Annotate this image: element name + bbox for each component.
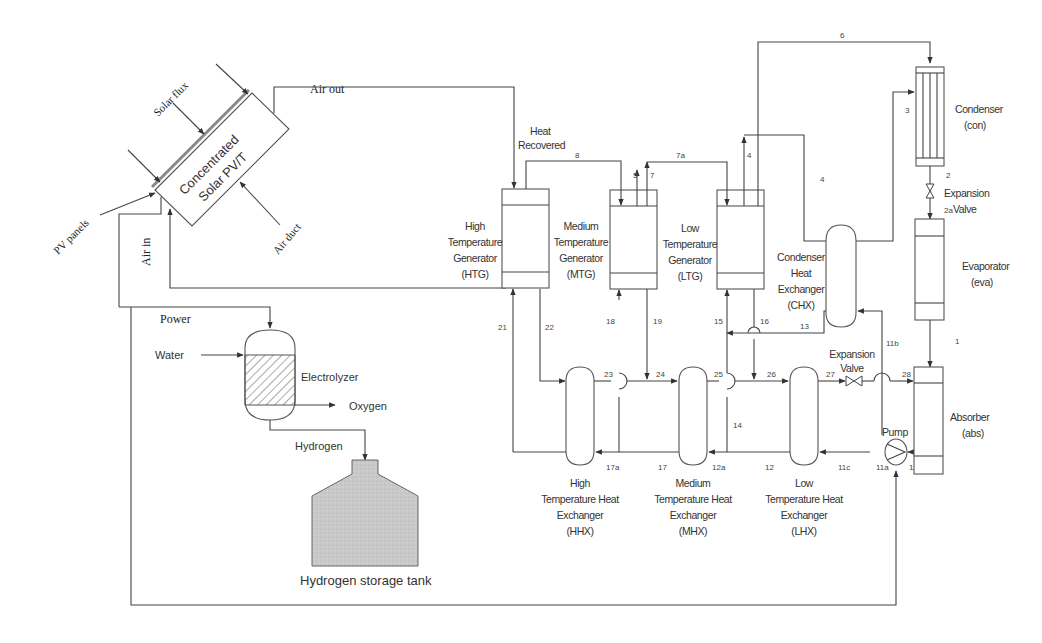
absorber-label-1: Absorber [950, 411, 990, 423]
ltg-label-2: Temperature [663, 238, 718, 250]
mhx [679, 367, 707, 465]
chx-label-4: (CHX) [787, 299, 814, 311]
power-label: Power [160, 312, 191, 326]
solar-flux-arrow [173, 103, 204, 134]
mtg-label-2: Temperature [554, 236, 609, 248]
state-16: 16 [760, 317, 769, 326]
heat-recovered-label-1: Heat [530, 125, 551, 137]
hhx-label-4: (HHX) [566, 525, 593, 537]
air-duct-label: Air duct [270, 221, 303, 257]
top-valve-label-1: Expansion [944, 187, 990, 199]
state-13: 13 [800, 322, 809, 331]
crossover-13 [748, 327, 760, 333]
state-7a: 7a [676, 151, 685, 160]
state-26: 26 [767, 370, 776, 379]
hhx [566, 367, 594, 465]
chx-label-2: Heat [791, 267, 812, 279]
crossover-23 [619, 373, 627, 389]
water-label: Water [155, 349, 184, 361]
mhx-label-1: Medium [676, 477, 712, 489]
state-7: 7 [650, 171, 655, 180]
air-in-label: Air in [139, 238, 153, 266]
hhx-label-3: Exchanger [557, 509, 605, 521]
pv-panels-label: PV panels [51, 216, 91, 256]
hhx-label-2: Temperature Heat [541, 493, 619, 505]
pv-panels-pointer [100, 193, 155, 215]
oxygen-label: Oxygen [349, 400, 387, 412]
state-21: 21 [498, 323, 507, 332]
state-23: 23 [604, 370, 613, 379]
lhx-label-2: Temperature Heat [765, 493, 843, 505]
evaporator [915, 219, 944, 320]
state-11b: 11b [886, 339, 899, 348]
mtg-label-1: Medium [564, 220, 600, 232]
lhx [790, 367, 818, 465]
evaporator-label-2: (eva) [971, 276, 993, 288]
pump [885, 439, 907, 465]
state-2a: 2a [944, 206, 953, 215]
tank-label: Hydrogen storage tank [300, 573, 432, 588]
state-4b: 4 [820, 175, 825, 184]
heat-recovered-label-2: Recovered [518, 139, 566, 151]
stream-7a [647, 162, 727, 205]
state-12: 12 [765, 463, 774, 472]
stream-3 [836, 92, 914, 241]
mhx-label-2: Temperature Heat [654, 493, 732, 505]
bottom-valve-label-2: Valve [840, 362, 864, 374]
air-duct-pointer [240, 182, 280, 225]
state-11a: 11a [876, 463, 889, 472]
state-8: 8 [575, 151, 580, 160]
chx-label-1: Condenser [777, 251, 826, 263]
state-3: 3 [905, 106, 910, 115]
stream-13 [727, 311, 826, 333]
absorber-label-2: (abs) [962, 427, 984, 439]
electrolyzer [245, 330, 295, 420]
state-17: 17 [658, 463, 667, 472]
state-6: 6 [840, 31, 845, 40]
condenser-label-2: (con) [964, 119, 986, 131]
htg-label-1: High [465, 220, 486, 232]
power-to-electrolyzer [119, 307, 270, 328]
hydrogen-label: Hydrogen [295, 440, 343, 452]
state-12a: 12a [712, 463, 726, 472]
ltg-label-4: (LTG) [678, 270, 703, 282]
state-14: 14 [733, 421, 742, 430]
state-25: 25 [714, 370, 723, 379]
state-24: 24 [656, 370, 665, 379]
pump-label: Pump [882, 426, 908, 438]
state-17a: 17a [606, 463, 620, 472]
mhx-label-3: Exchanger [670, 509, 718, 521]
air-out-line [274, 87, 514, 188]
absorber [914, 367, 943, 474]
ltg-label-1: Low [681, 222, 700, 234]
state-18: 18 [606, 317, 615, 326]
state-11c: 11c [838, 463, 850, 472]
condenser-label-1: Condenser [955, 103, 1004, 115]
mtg-label-3: Generator [559, 252, 604, 264]
htg-label-2: Temperature [448, 236, 503, 248]
lhx-label-1: Low [795, 477, 814, 489]
ltg-label-3: Generator [668, 254, 713, 266]
hhx-label-1: High [570, 477, 591, 489]
chx-label-3: Exchanger [778, 283, 826, 295]
state-27: 27 [826, 370, 835, 379]
bottom-expansion-valve [846, 376, 862, 386]
top-expansion-valve [926, 184, 934, 198]
air-out-label: Air out [310, 82, 345, 96]
lhx-label-3: Exchanger [781, 509, 829, 521]
evaporator-label-1: Evaporator [962, 260, 1010, 272]
state-19: 19 [653, 317, 662, 326]
solar-flux-label: Solar flux [151, 79, 191, 119]
state-1: 1 [955, 337, 960, 346]
air-in-line [170, 209, 506, 288]
condenser-heat-exchanger [826, 225, 856, 327]
top-valve-label-2: Valve [953, 203, 977, 215]
lhx-label-4: (LHX) [791, 525, 816, 537]
solar-pvt-collector: Concentrated Solar PV/T [152, 90, 289, 226]
htg-label-3: Generator [453, 252, 498, 264]
solar-flux-arrow [128, 150, 160, 182]
ltg-vessel [717, 190, 764, 289]
system-diagram: Concentrated Solar PV/T Solar flux PV pa… [0, 0, 1042, 643]
state-28: 28 [902, 370, 911, 379]
htg-label-4: (HTG) [461, 268, 488, 280]
